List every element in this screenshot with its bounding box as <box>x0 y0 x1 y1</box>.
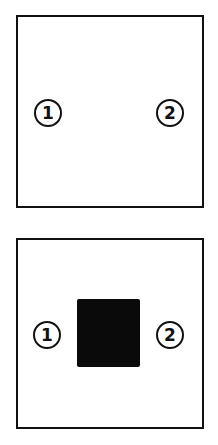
marker-2-label: 2 <box>164 327 176 344</box>
top-panel: 1 2 <box>16 15 204 208</box>
marker-1-label: 1 <box>42 105 54 122</box>
black-square <box>77 299 140 367</box>
marker-2-label: 2 <box>164 105 176 122</box>
marker-1: 1 <box>34 99 62 127</box>
marker-2: 2 <box>156 99 184 127</box>
marker-1: 1 <box>33 321 61 349</box>
bottom-panel: 1 2 <box>16 238 204 429</box>
marker-2: 2 <box>156 321 184 349</box>
marker-1-label: 1 <box>41 327 53 344</box>
